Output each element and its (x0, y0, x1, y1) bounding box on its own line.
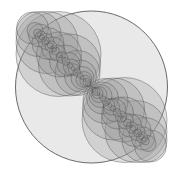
tangent-circle (75, 70, 78, 73)
tangent-circle (83, 79, 86, 82)
tangent-circle (108, 104, 112, 108)
tangent-circle (118, 113, 122, 117)
tangent-circle (127, 122, 131, 126)
tangent-circle (42, 37, 45, 40)
tangent-circle (92, 87, 95, 90)
tangent-circle (106, 101, 109, 104)
tangent-circle (51, 46, 54, 49)
tangent-circle (71, 67, 75, 71)
tangent-circle (114, 109, 117, 112)
tangent-circle (99, 95, 103, 99)
circle-fractal-canvas: Tangent circle chain fractal Two interlo… (0, 0, 183, 174)
tangent-circle (139, 134, 142, 137)
tangent-circle (60, 55, 63, 58)
tangent-circle (130, 125, 133, 128)
tangent-circle (62, 57, 66, 61)
tangent-circle (142, 138, 146, 142)
tangent-circle (97, 93, 100, 96)
tangent-circle (135, 130, 139, 134)
tangent-circle (80, 76, 84, 80)
tangent-circle (45, 40, 49, 44)
figure-root: Tangent circle chain fractal Two interlo… (0, 0, 183, 174)
tangent-circle (89, 84, 92, 87)
tangent-circle (67, 62, 70, 65)
tangent-circle (53, 48, 57, 52)
tangent-circle (121, 116, 124, 119)
tangent-circle (37, 33, 41, 37)
